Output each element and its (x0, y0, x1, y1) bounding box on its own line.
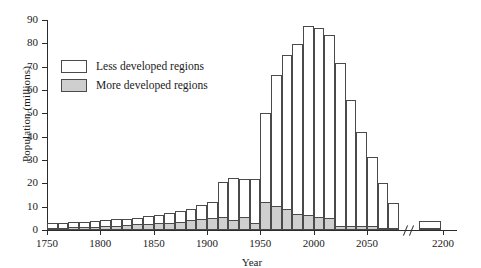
bar-segment-more-developed (282, 209, 293, 230)
bar-segment-less-developed (282, 55, 293, 230)
y-tick-label: 70 (8, 61, 38, 72)
bar-2000 (314, 28, 325, 230)
legend-label: More developed regions (96, 79, 208, 92)
y-tick-label: 0 (8, 224, 38, 235)
bar-1800 (100, 220, 111, 230)
bar-segment-more-developed (164, 223, 175, 230)
y-tick (42, 160, 47, 161)
legend-item-more-developed: More developed regions (61, 79, 208, 92)
bar-segment-less-developed (367, 157, 378, 230)
legend-label: Less developed regions (96, 60, 204, 73)
y-tick-label: 40 (8, 131, 38, 142)
bar-1920 (228, 178, 239, 231)
y-tick (42, 137, 47, 138)
bar-2020 (335, 63, 346, 230)
bar-2060 (378, 183, 389, 230)
plot-area: 0102030405060708090 17501800185019001950… (47, 20, 457, 230)
x-tick (367, 230, 368, 235)
bar-segment-more-developed (132, 224, 143, 230)
y-tick (42, 43, 47, 44)
bar-segment-less-developed (346, 100, 357, 230)
x-axis-line (47, 230, 457, 231)
bar-1930 (239, 179, 250, 230)
bar-segment-more-developed (58, 228, 69, 230)
y-axis-line (47, 20, 48, 231)
bar-segment-more-developed (356, 226, 367, 230)
legend-item-less-developed: Less developed regions (61, 60, 208, 73)
bar-segment-less-developed (335, 63, 346, 230)
bar-segment-more-developed (260, 202, 271, 230)
bar-segment-less-developed (314, 28, 325, 230)
y-tick-label: 10 (8, 201, 38, 212)
bar-segment-more-developed (239, 217, 250, 230)
bar-1910 (218, 182, 229, 230)
x-tick (443, 230, 444, 235)
bar-1860 (164, 213, 175, 230)
bar-1960 (271, 75, 282, 230)
bar-segment-more-developed (154, 223, 165, 230)
x-tick (207, 230, 208, 235)
x-tick (154, 230, 155, 235)
bar-1880 (186, 209, 197, 230)
bar-1770 (68, 222, 79, 230)
bar-segment-more-developed (324, 218, 335, 230)
y-tick (42, 90, 47, 91)
bar-2010 (324, 35, 335, 230)
bar-1870 (175, 211, 186, 230)
bar-2200 (419, 221, 441, 230)
bar-1990 (303, 26, 314, 230)
x-tick-label: 2050 (337, 237, 397, 249)
x-tick (314, 230, 315, 235)
bar-segment-less-developed (303, 26, 314, 230)
bar-1940 (250, 179, 261, 230)
y-tick (42, 207, 47, 208)
y-tick (42, 67, 47, 68)
y-tick-label: 20 (8, 177, 38, 188)
bar-segment-more-developed (111, 226, 122, 230)
bar-segment-more-developed (367, 226, 378, 230)
y-tick-label: 90 (8, 14, 38, 25)
bar-1780 (79, 222, 90, 230)
bar-1760 (58, 223, 69, 230)
bar-segment-more-developed (79, 227, 90, 230)
bar-segment-more-developed (335, 226, 346, 230)
legend-swatch-icon-less (61, 60, 87, 73)
bar-1900 (207, 202, 218, 230)
legend-swatch-icon-more (61, 79, 87, 92)
bar-segment-more-developed (218, 217, 229, 230)
bar-2040 (356, 132, 367, 230)
bar-segment-more-developed (388, 228, 399, 230)
x-tick (47, 230, 48, 235)
bar-1830 (132, 218, 143, 230)
bar-segment-more-developed (419, 228, 441, 230)
x-tick-label: 1850 (124, 237, 184, 249)
bar-segment-less-developed (292, 44, 303, 230)
bar-segment-more-developed (250, 223, 261, 230)
bar-segment-more-developed (90, 227, 101, 231)
bar-1790 (90, 221, 101, 230)
x-tick-label: 2200 (413, 237, 473, 249)
bar-1890 (196, 205, 207, 230)
y-tick (42, 20, 47, 21)
bar-segment-less-developed (324, 35, 335, 230)
x-tick-label: 1900 (177, 237, 237, 249)
bar-segment-less-developed (378, 183, 389, 230)
y-tick-label: 60 (8, 84, 38, 95)
bar-2050 (367, 157, 378, 230)
bar-1810 (111, 219, 122, 230)
bar-segment-less-developed (388, 203, 399, 230)
bar-segment-more-developed (143, 224, 154, 230)
bar-segment-more-developed (47, 228, 58, 230)
x-tick-label: 1800 (70, 237, 130, 249)
bar-segment-less-developed (356, 132, 367, 230)
x-tick-label: 2000 (284, 237, 344, 249)
bar-segment-more-developed (292, 214, 303, 230)
x-tick-label: 1950 (230, 237, 290, 249)
bar-2070 (388, 203, 399, 230)
bar-segment-more-developed (122, 225, 133, 230)
bar-segment-more-developed (314, 217, 325, 230)
bar-segment-more-developed (68, 227, 79, 230)
y-tick (42, 183, 47, 184)
bar-segment-more-developed (100, 226, 111, 230)
